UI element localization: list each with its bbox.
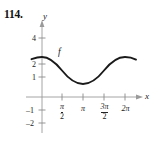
y-tick-label-minus-1: –1 [20, 107, 34, 115]
curve-label-f: f [58, 48, 61, 57]
pi-symbol: π [81, 104, 85, 113]
fraction-numerator: π [60, 103, 64, 112]
function-curve [32, 57, 137, 84]
x-tick-label-3pi-over-2: 3π 2 [96, 103, 113, 121]
fraction-denominator: 2 [60, 113, 64, 122]
y-axis-label: y [43, 12, 47, 21]
x-tick-label-pi-over-2: π 2 [55, 103, 69, 121]
y-tick-label-4: 4 [22, 35, 36, 43]
x-tick-label-pi: π [77, 104, 89, 113]
fraction-denominator: 2 [100, 113, 108, 122]
x-axis-arrowhead [136, 95, 143, 100]
fraction-pi-over-2: π 2 [60, 103, 64, 121]
x-tick-label-2pi: 2π [118, 104, 133, 113]
y-axis-arrowhead [40, 20, 45, 27]
two-pi-symbol: 2π [121, 104, 129, 113]
math-figure: 114. y x f 4 2 1 –1 –2 π 2 [0, 0, 155, 149]
x-axis-label: x [145, 92, 149, 101]
y-tick-label-minus-2: –2 [20, 120, 34, 128]
fraction-numerator: 3π [100, 103, 108, 112]
fraction-3pi-over-2: 3π 2 [100, 103, 108, 121]
y-tick-label-1: 1 [22, 74, 36, 82]
y-tick-label-2: 2 [22, 61, 36, 69]
